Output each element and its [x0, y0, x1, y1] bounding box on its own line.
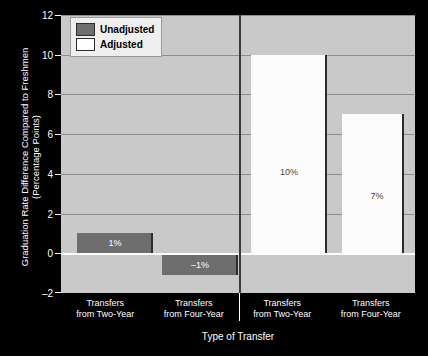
- bar-adjusted-four-year: [342, 114, 404, 253]
- axis-backdrop-top: [61, 0, 428, 15]
- bar-value-label: 10%: [280, 167, 298, 177]
- bar-value-label: 7%: [370, 191, 383, 201]
- legend-label: Adjusted: [100, 39, 143, 50]
- y-axis-title-line1: Graduation Rate Difference Compared to F…: [19, 48, 30, 266]
- x-category-line1: Transfers: [86, 298, 124, 308]
- y-axis-title-line2: (Percentage Points): [30, 115, 41, 199]
- x-category-line1: Transfers: [175, 298, 213, 308]
- y-tick-label: 4: [47, 168, 53, 179]
- bar-value-label: –1%: [191, 260, 209, 270]
- x-category-line2: from Four-Year: [341, 309, 401, 319]
- x-category-label: Transfers from Two-Year: [61, 298, 150, 328]
- legend-item-adjusted: Adjusted: [76, 37, 154, 52]
- y-axis-title: Graduation Rate Difference Compared to F…: [19, 17, 41, 297]
- x-axis-title: Type of Transfer: [61, 331, 415, 342]
- y-axis: 12 10 8 6 4 2 0 –2 Graduation Rate Diffe…: [0, 0, 61, 293]
- gridline-8: [61, 94, 415, 95]
- y-tick-label: 12: [42, 10, 53, 21]
- gridline-12: [61, 15, 415, 16]
- legend-item-unadjusted: Unadjusted: [76, 22, 154, 37]
- bar-value-label: 1%: [108, 238, 121, 248]
- y-tick-label: 2: [47, 208, 53, 219]
- y-tick-label: 10: [42, 49, 53, 60]
- group-divider: [239, 15, 241, 293]
- y-tick-label: –2: [42, 288, 53, 299]
- y-tick-label: 6: [47, 129, 53, 140]
- y-tick-label: 0: [47, 248, 53, 259]
- y-tick-label: 8: [47, 89, 53, 100]
- x-category-label: Transfers from Four-Year: [150, 298, 239, 328]
- x-category-line2: from Two-Year: [76, 309, 134, 319]
- x-category-line2: from Four-Year: [164, 309, 224, 319]
- x-category-label: Transfers from Two-Year: [238, 298, 327, 328]
- x-category-line2: from Two-Year: [253, 309, 311, 319]
- graduation-rate-bar-chart: 12 10 8 6 4 2 0 –2 Graduation Rate Diffe…: [0, 0, 428, 363]
- legend-swatch-unadjusted: [76, 23, 95, 36]
- x-axis-category-labels: Transfers from Two-Year Transfers from F…: [61, 298, 415, 328]
- x-category-label: Transfers from Four-Year: [327, 298, 416, 328]
- legend-label: Unadjusted: [100, 24, 154, 35]
- chart-legend: Unadjusted Adjusted: [70, 17, 162, 57]
- axis-backdrop-right: [415, 0, 428, 293]
- legend-swatch-adjusted: [76, 38, 95, 51]
- zero-line: [61, 253, 415, 255]
- x-category-line1: Transfers: [352, 298, 390, 308]
- x-category-line1: Transfers: [263, 298, 301, 308]
- bar-adjusted-two-year: [251, 55, 327, 254]
